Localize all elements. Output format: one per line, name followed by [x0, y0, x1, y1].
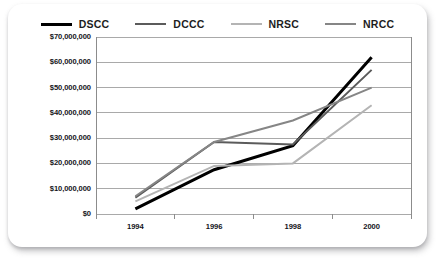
line-chart: [8, 4, 427, 247]
series-line-nrsc: [135, 105, 371, 201]
series-line-dccc: [135, 70, 371, 198]
chart-card: DSCCDCCCNRSCNRCC $0$10,000,000$20,000,00…: [8, 4, 427, 247]
plot-area: [8, 4, 427, 247]
